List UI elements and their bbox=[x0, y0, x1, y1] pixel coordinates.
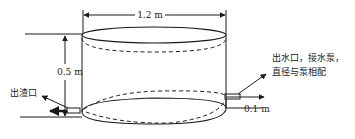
tank-bottom-solid bbox=[82, 98, 226, 124]
slag-outlet-leader bbox=[42, 96, 68, 108]
water-outlet-label-1: 出水口，接水泵， bbox=[272, 52, 344, 63]
slag-outlet-pipe bbox=[67, 108, 80, 113]
water-outlet-leader bbox=[238, 74, 266, 94]
water-outlet-label-2: 直径与泵相配 bbox=[272, 66, 326, 77]
diameter-label: 1.2 m bbox=[137, 10, 163, 20]
height-label: 0.5 m bbox=[57, 67, 83, 77]
slag-outlet-label: 出渣口 bbox=[10, 87, 37, 98]
tank-top-rim bbox=[82, 27, 226, 43]
outlet-height-label: 0.1 m bbox=[244, 104, 270, 114]
tank-diagram: 1.2 m 0.5 m 0.1 m 出渣口 出水口，接水泵， 直径与泵相配 bbox=[0, 0, 355, 139]
